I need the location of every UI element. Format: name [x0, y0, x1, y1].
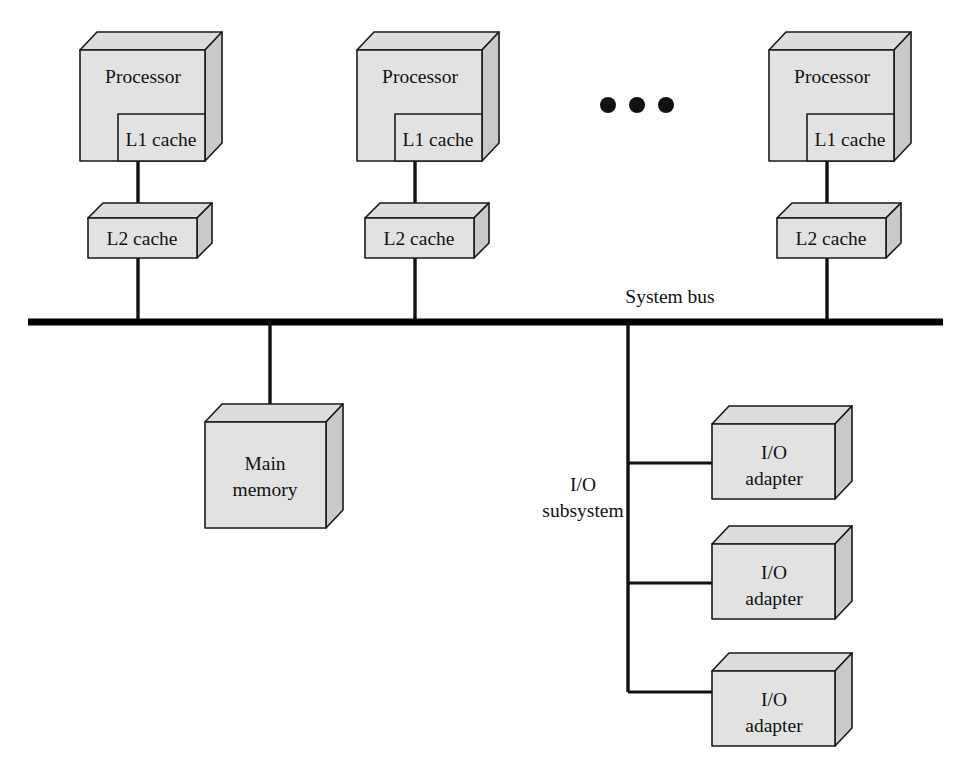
- main-memory-label-line2: memory: [233, 479, 298, 500]
- main-memory-front-face: [205, 422, 326, 528]
- processor-label-2: Processor: [382, 66, 458, 87]
- main-memory-box[interactable]: Main memory: [205, 404, 343, 528]
- l2-cache-label-1: L2 cache: [107, 228, 178, 249]
- system-architecture-diagram: Processor L1 cache L2 cache Processor: [0, 0, 965, 770]
- system-bus-label: System bus: [625, 286, 714, 307]
- io-subsystem-group: I/O subsystem: [542, 322, 712, 692]
- processor-box-side-face-3: [894, 32, 911, 161]
- processor-box-2[interactable]: Processor L1 cache: [357, 32, 499, 161]
- l2-cache-top-face-2: [365, 203, 489, 218]
- io-adapter-label-2-line2: adapter: [745, 588, 803, 609]
- diagram-canvas: Processor L1 cache L2 cache Processor: [0, 0, 965, 770]
- io-subsystem-label-line2: subsystem: [542, 500, 623, 521]
- l2-cache-top-face-3: [777, 203, 901, 218]
- l2-cache-box-2[interactable]: L2 cache: [365, 203, 489, 258]
- processor-group-2: Processor L1 cache L2 cache: [357, 32, 499, 322]
- l2-cache-top-face-1: [88, 203, 212, 218]
- processor-box-top-face-3: [769, 32, 911, 50]
- io-adapter-label-1-line2: adapter: [745, 468, 803, 489]
- io-adapter-top-face-2: [712, 526, 852, 544]
- ellipsis-dot-3: [658, 97, 674, 113]
- l1-cache-label-2: L1 cache: [403, 129, 474, 150]
- processor-label-3: Processor: [794, 66, 870, 87]
- main-memory-side-face: [326, 404, 343, 528]
- main-memory-label-line1: Main: [244, 453, 285, 474]
- processor-label-1: Processor: [105, 66, 181, 87]
- io-adapter-box-1[interactable]: I/O adapter: [712, 406, 852, 499]
- l2-cache-box-1[interactable]: L2 cache: [88, 203, 212, 258]
- processor-box-side-face-1: [205, 32, 222, 161]
- processor-box-1[interactable]: Processor L1 cache: [80, 32, 222, 161]
- processor-box-3[interactable]: Processor L1 cache: [769, 32, 911, 161]
- io-subsystem-label-line1: I/O: [570, 474, 596, 495]
- io-adapter-box-3[interactable]: I/O adapter: [712, 653, 852, 746]
- main-memory-group: Main memory: [205, 322, 343, 528]
- processor-box-side-face-2: [482, 32, 499, 161]
- l1-cache-label-1: L1 cache: [126, 129, 197, 150]
- io-adapter-label-3-line2: adapter: [745, 715, 803, 736]
- l2-cache-label-2: L2 cache: [384, 228, 455, 249]
- ellipsis-dot-1: [600, 97, 616, 113]
- ellipsis-dot-2: [629, 97, 645, 113]
- io-adapter-label-3-line1: I/O: [761, 689, 787, 710]
- io-adapter-top-face-1: [712, 406, 852, 424]
- l2-cache-label-3: L2 cache: [796, 228, 867, 249]
- l2-cache-box-3[interactable]: L2 cache: [777, 203, 901, 258]
- more-processors-ellipsis: [600, 97, 674, 113]
- main-memory-top-face: [205, 404, 343, 422]
- io-adapter-top-face-3: [712, 653, 852, 671]
- io-adapter-box-2[interactable]: I/O adapter: [712, 526, 852, 619]
- io-adapter-label-1-line1: I/O: [761, 442, 787, 463]
- processor-box-top-face-2: [357, 32, 499, 50]
- l1-cache-label-3: L1 cache: [815, 129, 886, 150]
- io-adapter-label-2-line1: I/O: [761, 562, 787, 583]
- system-bus[interactable]: System bus: [28, 286, 943, 322]
- processor-group-3: Processor L1 cache L2 cache: [769, 32, 911, 322]
- processor-group-1: Processor L1 cache L2 cache: [80, 32, 222, 322]
- processor-box-top-face-1: [80, 32, 222, 50]
